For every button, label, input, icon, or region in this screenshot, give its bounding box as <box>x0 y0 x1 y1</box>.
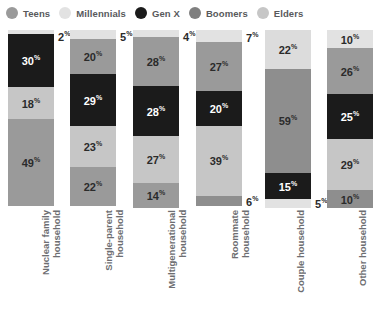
segment-value-label: 10% <box>341 193 359 206</box>
bar-segment-teens[interactable]: 27% <box>196 42 242 90</box>
legend-item-genx[interactable]: Gen X <box>135 7 180 19</box>
x-axis-label-1: Single-parent household <box>103 210 125 271</box>
bar-segment-millennials[interactable] <box>133 30 179 37</box>
segment-value-label: 39% <box>210 154 228 167</box>
segment-value-callout-millennials: 2% <box>58 30 70 43</box>
bar-segment-genx[interactable]: 20% <box>196 91 242 127</box>
stacked-bar[interactable]: 10%26%25%29%10% <box>327 30 373 208</box>
segment-value-label: 49% <box>22 156 40 169</box>
bar-segment-genx[interactable]: 15% <box>265 173 311 199</box>
bar-segment-boomers[interactable]: 59% <box>265 69 311 173</box>
legend-label-elders: Elders <box>274 8 304 19</box>
bar-segment-genx[interactable]: 25% <box>327 94 373 139</box>
segment-value-label: 29% <box>84 94 102 107</box>
legend-item-millennials[interactable]: Millennials <box>59 7 126 19</box>
legend-item-elders[interactable]: Elders <box>257 7 304 19</box>
bar-segment-genx[interactable]: 30% <box>8 34 54 87</box>
bar-segment-millennials[interactable] <box>70 30 116 39</box>
bar-segment-boomers[interactable]: 14% <box>133 183 179 208</box>
legend-label-teens: Teens <box>23 8 50 19</box>
bar-segment-millennials[interactable]: 10% <box>327 30 373 48</box>
bar-group-1: 20%29%23%22%5% <box>70 30 116 208</box>
x-axis-label-3: Roommate household <box>229 210 251 259</box>
segment-value-label: 59% <box>279 114 297 127</box>
segment-value-callout-millennials: 7% <box>246 31 258 44</box>
bar-group-2: 28%28%27%14%4% <box>133 30 179 208</box>
bar-group-5: 10%26%25%29%10% <box>327 30 373 208</box>
x-axis-label-2: Multigenerational household <box>166 210 188 289</box>
bar-segment-teens[interactable]: 26% <box>327 48 373 94</box>
segment-value-label: 27% <box>147 153 165 166</box>
bar-group-0: 30%18%49%2% <box>8 30 54 208</box>
stacked-bar[interactable]: 22%59%15% <box>265 30 311 208</box>
legend-swatch-boomers-icon <box>189 7 201 19</box>
bar-segment-boomers[interactable]: 49% <box>8 119 54 206</box>
legend-item-boomers[interactable]: Boomers <box>189 7 248 19</box>
legend-item-teens[interactable]: Teens <box>6 7 50 19</box>
segment-value-label: 30% <box>22 54 40 67</box>
bar-segment-genx[interactable]: 28% <box>133 86 179 135</box>
segment-value-callout-millennials: 5% <box>315 197 327 210</box>
bar-segment-elders[interactable]: 22% <box>265 30 311 69</box>
bar-segment-teens[interactable]: 20% <box>70 39 116 75</box>
bar-segment-elders[interactable]: 27% <box>133 136 179 184</box>
segment-value-label: 14% <box>147 189 165 202</box>
segment-value-label: 22% <box>84 180 102 193</box>
segment-value-label: 18% <box>22 97 40 110</box>
bar-segment-elders[interactable]: 29% <box>327 139 373 191</box>
bar-segment-millennials[interactable] <box>265 199 311 208</box>
stacked-bar[interactable]: 20%29%23%22% <box>70 30 116 208</box>
x-axis-label-5: Other household <box>357 210 368 286</box>
segment-value-label: 26% <box>341 65 359 78</box>
segment-value-label: 25% <box>341 110 359 123</box>
bar-segment-boomers[interactable]: 22% <box>70 167 116 206</box>
segment-value-callout-millennials: 5% <box>120 30 132 43</box>
legend-swatch-elders-icon <box>257 7 269 19</box>
legend-swatch-millennials-icon <box>59 7 71 19</box>
segment-value-label: 28% <box>147 105 165 118</box>
stacked-bar[interactable]: 28%28%27%14% <box>133 30 179 208</box>
segment-value-label: 23% <box>84 140 102 153</box>
segment-value-label: 15% <box>279 180 297 193</box>
x-axis-labels: Nuclear family householdSingle-parent ho… <box>0 210 382 322</box>
chart-legend: TeensMillennialsGen XBoomersElders <box>0 0 382 26</box>
segment-value-label: 20% <box>84 50 102 63</box>
segment-value-label: 29% <box>341 158 359 171</box>
bar-segment-millennials[interactable] <box>196 30 242 42</box>
bar-segment-elders[interactable]: 18% <box>8 87 54 119</box>
bar-segment-elders[interactable]: 39% <box>196 126 242 195</box>
segment-value-label: 28% <box>147 55 165 68</box>
bar-segment-genx[interactable]: 29% <box>70 74 116 126</box>
legend-swatch-genx-icon <box>135 7 147 19</box>
stacked-bar[interactable]: 27%20%39% <box>196 30 242 208</box>
legend-label-boomers: Boomers <box>206 8 248 19</box>
segment-value-label: 10% <box>341 33 359 46</box>
stacked-bar[interactable]: 30%18%49% <box>8 30 54 208</box>
bar-segment-boomers[interactable]: 10% <box>327 190 373 208</box>
x-axis-label-0: Nuclear family household <box>40 210 62 275</box>
legend-swatch-teens-icon <box>6 7 18 19</box>
bar-segment-boomers[interactable] <box>196 196 242 207</box>
chart-plot-area: 30%18%49%2%20%29%23%22%5%28%28%27%14%4%2… <box>0 30 382 208</box>
segment-value-callout-millennials: 4% <box>183 30 195 43</box>
bar-segment-teens[interactable]: 28% <box>133 37 179 86</box>
bar-group-4: 22%59%15%5% <box>265 30 311 208</box>
segment-value-label: 27% <box>210 60 228 73</box>
legend-label-genx: Gen X <box>152 8 180 19</box>
segment-value-callout-boomers: 6% <box>246 195 258 208</box>
segment-value-label: 20% <box>210 102 228 115</box>
bar-segment-elders[interactable]: 23% <box>70 126 116 167</box>
x-axis-label-4: Couple household <box>295 210 306 293</box>
legend-label-millennials: Millennials <box>76 8 126 19</box>
bar-group-3: 27%20%39%7%6% <box>196 30 242 208</box>
segment-value-label: 22% <box>279 43 297 56</box>
